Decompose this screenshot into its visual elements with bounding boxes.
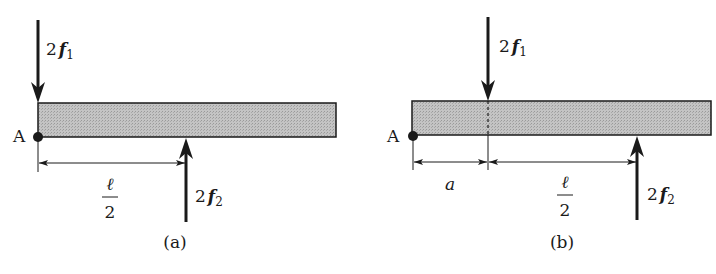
diagram-a: 2f1 A ℓ 2 2f2 (a): [12, 20, 336, 252]
force-arrow-f2-a: [179, 138, 193, 222]
dimension-label-l-half-b: ℓ 2: [557, 172, 573, 220]
point-label-b: A: [386, 126, 400, 146]
beam-b: [412, 101, 711, 135]
caption-a: (a): [163, 232, 186, 252]
svg-text:2: 2: [560, 200, 571, 220]
force-label-f1-a: 2f1: [46, 39, 74, 62]
svg-text:ℓ: ℓ: [561, 172, 568, 192]
force-arrow-f1-a: [31, 20, 45, 103]
force-label-f2-b: 2f2: [647, 184, 675, 207]
svg-text:ℓ: ℓ: [106, 174, 113, 194]
force-label-f1-b: 2f1: [499, 36, 527, 59]
svg-text:2: 2: [105, 202, 116, 222]
dimension-label-a: a: [445, 174, 455, 194]
force-arrow-f1-b: [481, 17, 495, 101]
beam-diagrams: 2f1 A ℓ 2 2f2 (a) 2: [0, 0, 716, 274]
dimension-label-l-half-a: ℓ 2: [102, 174, 118, 222]
diagram-b: 2f1 A a ℓ 2 2f2 (b): [386, 17, 711, 252]
beam-a: [38, 103, 336, 137]
caption-b: (b): [550, 232, 574, 252]
force-label-f2-a: 2f2: [195, 186, 223, 209]
point-label-a: A: [12, 126, 26, 146]
force-arrow-f2-b: [630, 136, 644, 220]
